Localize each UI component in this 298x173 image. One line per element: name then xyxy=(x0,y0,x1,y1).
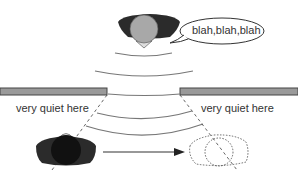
sound-wave-5 xyxy=(86,124,203,135)
listener-moved-dotted-icon xyxy=(190,135,248,166)
sound-wave-4 xyxy=(97,111,192,119)
quiet-label-left: very quiet here xyxy=(16,102,89,114)
wall-left xyxy=(0,88,107,95)
wall-right xyxy=(180,88,298,95)
sound-wave-1 xyxy=(115,53,172,56)
quiet-label-right: very quiet here xyxy=(201,102,274,114)
speech-bubble-text: blah,blah,blah xyxy=(192,24,261,36)
sound-wave-3 xyxy=(108,94,180,96)
listener-person-icon xyxy=(0,0,116,166)
movement-arrow-icon xyxy=(103,148,185,156)
sound-wave-2 xyxy=(95,71,193,76)
